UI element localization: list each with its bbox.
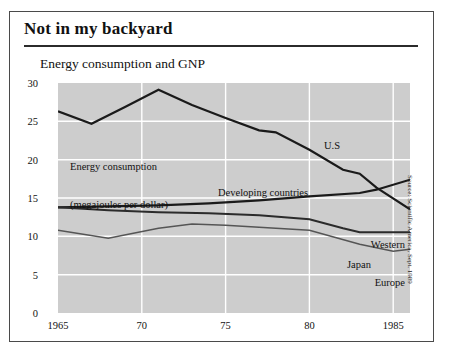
y-tick-5: 5 [16, 269, 38, 280]
annotation-yaxis-note-line1: Energy consumption [70, 161, 168, 174]
annotation-japan: Japan [347, 259, 371, 272]
x-tick-1980: 80 [304, 320, 315, 331]
annotation-western-europe-line1: Western [347, 239, 405, 252]
x-axis-ticks: 1965 70 75 80 1985 [10, 320, 435, 336]
y-tick-15: 15 [16, 193, 38, 204]
source-credit: Source: Scientific America, Sept. 1989 [406, 175, 414, 284]
y-tick-30: 30 [16, 78, 38, 89]
x-tick-1965: 1965 [48, 320, 69, 331]
y-tick-10: 10 [16, 231, 38, 242]
plot-wrapper: 30 25 20 15 10 5 0 [10, 12, 435, 343]
x-tick-1985: 1985 [383, 320, 404, 331]
x-tick-1975: 75 [220, 320, 231, 331]
chart-figure: Not in my backyard Energy consumption an… [9, 11, 434, 342]
annotation-yaxis-note-line2: (megajoules per dollar) [70, 199, 168, 212]
annotation-developing-countries: Developing countries [218, 187, 308, 200]
y-tick-20: 20 [16, 154, 38, 165]
x-tick-1970: 70 [137, 320, 148, 331]
annotation-us: U.S [324, 140, 340, 153]
plot-area: Energy consumption (megajoules per dolla… [58, 83, 410, 313]
y-tick-0: 0 [16, 308, 38, 319]
y-axis-ticks: 30 25 20 15 10 5 0 [16, 12, 38, 343]
annotation-yaxis-note: Energy consumption (megajoules per dolla… [70, 136, 168, 236]
annotation-western-europe-line2: Europe [347, 277, 405, 290]
y-tick-25: 25 [16, 116, 38, 127]
